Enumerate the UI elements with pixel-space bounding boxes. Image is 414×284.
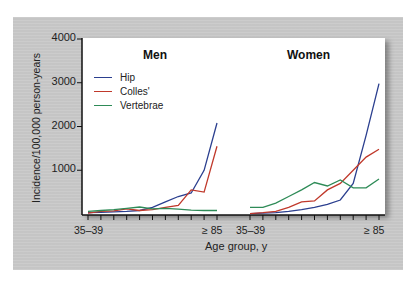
men-x-first-label: 35–39 bbox=[74, 224, 103, 236]
women-x-last-label: ≥ 85 bbox=[364, 224, 384, 236]
y-tick-4000: 4000 bbox=[36, 31, 76, 43]
legend-label-hip: Hip bbox=[120, 72, 135, 83]
women-series-lines bbox=[250, 84, 379, 214]
men-panel-title: Men bbox=[143, 48, 167, 62]
y-tick-3000: 3000 bbox=[36, 75, 76, 87]
legend-swatch-vertebrae bbox=[94, 105, 112, 106]
axes bbox=[77, 38, 385, 220]
legend-swatch-colles bbox=[94, 91, 112, 92]
men-line-hip bbox=[88, 123, 217, 213]
legend-item-vertebrae: Vertebrae bbox=[94, 98, 163, 112]
legend-label-vertebrae: Vertebrae bbox=[120, 100, 163, 111]
women-x-first-label: 35–39 bbox=[236, 224, 265, 236]
men-x-last-label: ≥ 85 bbox=[202, 224, 222, 236]
x-axis-title: Age group, y bbox=[205, 240, 267, 252]
y-tick-1000: 1000 bbox=[36, 162, 76, 174]
legend-item-hip: Hip bbox=[94, 70, 163, 84]
y-axis-title: Incidence/100,000 person-years bbox=[30, 48, 42, 208]
women-panel-title: Women bbox=[287, 48, 330, 62]
legend: Hip Colles' Vertebrae bbox=[94, 70, 163, 112]
legend-label-colles: Colles' bbox=[120, 86, 150, 97]
men-line-colles bbox=[88, 146, 217, 213]
legend-swatch-hip bbox=[94, 77, 112, 78]
men-series-lines bbox=[88, 123, 217, 213]
women-line-vertebrae bbox=[250, 179, 379, 207]
legend-item-colles: Colles' bbox=[94, 84, 163, 98]
women-line-hip bbox=[250, 84, 379, 214]
y-tick-2000: 2000 bbox=[36, 119, 76, 131]
